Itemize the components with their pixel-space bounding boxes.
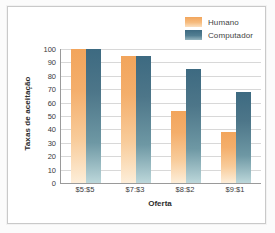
y-tick-label: 70	[48, 85, 56, 94]
y-tick-label: 90	[48, 58, 56, 67]
axes	[60, 49, 261, 184]
x-axis-title: Oferta	[60, 199, 260, 208]
y-tick-label: 40	[48, 125, 56, 134]
legend-item-humano: Humano	[185, 17, 253, 27]
y-axis-ticks: 0102030405060708090100	[36, 49, 58, 183]
x-axis-ticks: $5:$5$7:$3$8:$2$9:$1	[60, 185, 260, 194]
y-tick-label: 10	[48, 165, 56, 174]
y-axis-title: Taxas de aceitação	[20, 49, 34, 177]
y-tick-label: 60	[48, 98, 56, 107]
legend-swatch-computador	[185, 30, 202, 40]
bar-groups	[61, 49, 261, 183]
bar-humano-3	[221, 132, 236, 183]
legend-swatch-humano	[185, 17, 202, 27]
x-tick-label: $5:$5	[60, 185, 110, 194]
bar-computador-2	[186, 69, 201, 183]
y-tick-label: 80	[48, 71, 56, 80]
legend-item-computador: Computador	[185, 30, 253, 40]
plot-area: Taxas de aceitação 010203040506070809010…	[22, 49, 267, 224]
bar-group	[71, 49, 101, 183]
y-tick-label: 0	[52, 179, 56, 188]
bar-group	[221, 49, 251, 183]
chart-legend: Humano Computador	[185, 17, 253, 40]
x-tick-label: $8:$2	[160, 185, 210, 194]
y-axis-title-text: Taxas de aceitação	[23, 76, 32, 150]
y-tick-label: 50	[48, 112, 56, 121]
bar-computador-3	[236, 92, 251, 183]
bar-group	[121, 49, 151, 183]
bar-computador-1	[136, 56, 151, 183]
y-tick-label: 30	[48, 138, 56, 147]
bar-humano-1	[121, 56, 136, 183]
legend-label-computador: Computador	[208, 31, 253, 40]
x-tick-label: $9:$1	[210, 185, 260, 194]
bar-humano-2	[171, 111, 186, 183]
y-tick-label: 100	[43, 45, 56, 54]
legend-label-humano: Humano	[208, 18, 239, 27]
x-tick-label: $7:$3	[110, 185, 160, 194]
bar-computador-0	[86, 49, 101, 183]
chart-figure: Humano Computador Taxas de aceitação 010…	[0, 0, 275, 233]
bar-group	[171, 49, 201, 183]
y-tick-label: 20	[48, 152, 56, 161]
chart-frame: Humano Computador Taxas de aceitação 010…	[7, 6, 266, 224]
bar-humano-0	[71, 49, 86, 183]
